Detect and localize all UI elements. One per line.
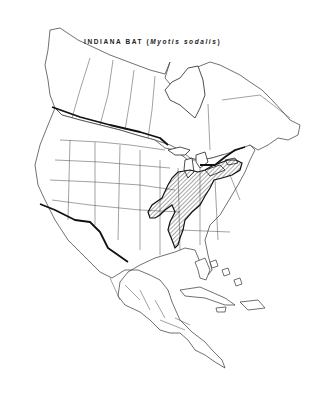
jamaica: [216, 307, 226, 312]
hispaniola: [240, 300, 265, 310]
title-close-paren: ): [218, 38, 222, 45]
title-common-name: INDIANA BAT: [84, 38, 143, 45]
bahamas: [210, 260, 242, 286]
north-america-map: [0, 0, 323, 396]
cuba: [180, 287, 235, 305]
map-title: INDIANA BAT (Myotis sodalis): [84, 38, 221, 45]
title-scientific-name: Myotis sodalis: [150, 38, 217, 45]
